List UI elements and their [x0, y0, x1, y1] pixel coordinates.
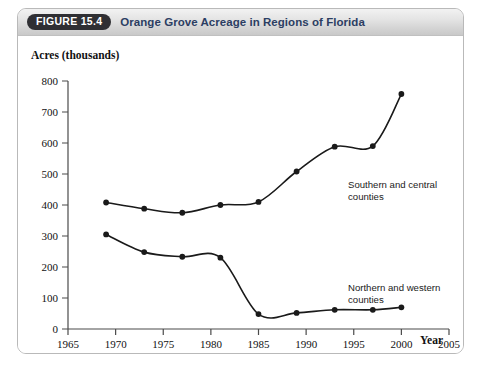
data-point	[398, 91, 404, 97]
data-point	[332, 144, 338, 150]
x-tick-label: 1985	[248, 338, 271, 350]
plot-area: Acres (thousands) Year 01002003004005006…	[18, 36, 463, 353]
x-tick-label: 2000	[390, 338, 413, 350]
y-tick-label: 500	[42, 168, 59, 180]
x-tick-label: 2005	[438, 338, 461, 350]
data-point	[179, 254, 185, 260]
y-tick-label: 600	[42, 137, 59, 149]
x-tick-label: 1970	[105, 338, 128, 350]
y-axis: 0100200300400500600700800	[42, 75, 69, 335]
series-label-1: Northern and western	[348, 282, 440, 293]
data-point	[398, 304, 404, 310]
data-point	[370, 143, 376, 149]
figure-header: FIGURE 15.4 Orange Grove Acreage in Regi…	[18, 9, 463, 36]
x-tick-label: 1990	[295, 338, 318, 350]
data-point	[179, 210, 185, 216]
y-tick-group: 0100200300400500600700800	[42, 75, 69, 335]
y-axis-title: Acres (thousands)	[31, 49, 119, 62]
x-tick-group: 196519701975198019851990199520002005	[57, 329, 461, 350]
x-tick-label: 1965	[57, 338, 80, 350]
y-tick-label: 300	[42, 230, 59, 242]
data-point	[141, 206, 147, 212]
data-point	[370, 307, 376, 313]
data-point	[256, 199, 262, 205]
data-point	[218, 202, 224, 208]
y-tick-label: 200	[42, 261, 59, 273]
series-line-1	[106, 234, 401, 318]
line-chart: Acres (thousands) Year 01002003004005006…	[18, 36, 464, 354]
data-point	[256, 311, 262, 317]
data-point	[103, 200, 109, 206]
figure-card: FIGURE 15.4 Orange Grove Acreage in Regi…	[17, 8, 464, 354]
series-label-1: counties	[348, 294, 384, 305]
x-tick-label: 1980	[200, 338, 223, 350]
data-point	[141, 249, 147, 255]
data-point	[294, 169, 300, 175]
series-label-0: counties	[348, 191, 384, 202]
figure-number-badge: FIGURE 15.4	[27, 14, 111, 30]
x-tick-label: 1975	[152, 338, 175, 350]
series-label-0: Southern and central	[348, 179, 437, 190]
y-tick-label: 0	[53, 323, 59, 335]
y-tick-label: 800	[42, 75, 59, 87]
data-point	[218, 255, 224, 261]
data-point	[294, 310, 300, 316]
y-tick-label: 400	[42, 199, 59, 211]
figure-title: Orange Grove Acreage in Regions of Flori…	[120, 16, 365, 28]
data-point	[332, 307, 338, 313]
series-annotations: Southern and centralcountiesNorthern and…	[348, 179, 440, 305]
data-point	[103, 232, 109, 238]
y-tick-label: 700	[42, 106, 59, 118]
x-tick-label: 1995	[343, 338, 366, 350]
x-axis: 196519701975198019851990199520002005	[57, 329, 461, 350]
y-tick-label: 100	[42, 292, 59, 304]
